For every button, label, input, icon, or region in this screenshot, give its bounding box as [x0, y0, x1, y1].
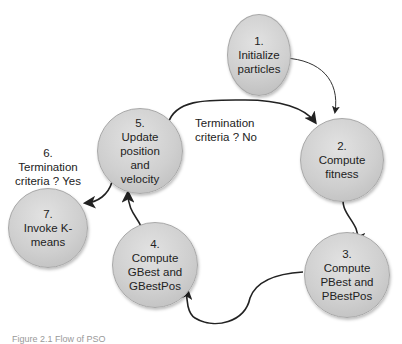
- node-invoke-kmeans: 7. Invoke K- means: [8, 188, 88, 268]
- node-initialize-particles: 1. Initialize particles: [227, 14, 291, 96]
- figure-caption: Figure 2.1 Flow of PSO: [12, 334, 106, 344]
- node-update-position-velocity: 5. Update position and velocity: [97, 108, 183, 194]
- node-compute-fitness: 2. Compute fitness: [300, 118, 384, 202]
- edge-1-to-2: [285, 58, 336, 112]
- edge-label-termination-no: Termination criteria ? No: [195, 116, 257, 144]
- edge-3-to-4: [187, 272, 303, 324]
- edge-label-termination-yes: 6. Termination criteria ? Yes: [10, 146, 86, 188]
- node-compute-gbest: 4. Compute GBest and GBestPos: [112, 222, 198, 308]
- edge-5-to-7: [86, 182, 112, 203]
- node-compute-pbest: 3. Compute PBest and PBestPos: [304, 232, 390, 318]
